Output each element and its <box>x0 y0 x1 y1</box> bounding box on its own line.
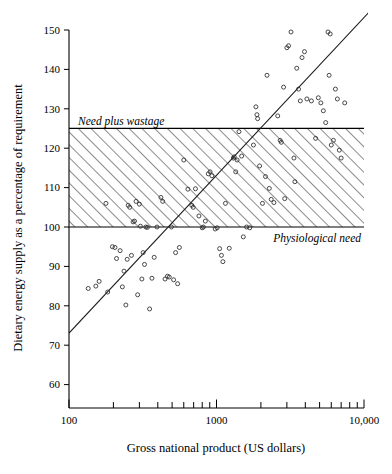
y-tick-label: 70 <box>49 339 61 351</box>
x-tick-label: 1000 <box>206 414 229 426</box>
x-tick-label: 100 <box>61 414 78 426</box>
y-tick-label: 130 <box>44 103 61 115</box>
y-tick-label: 90 <box>49 260 61 272</box>
scatter-plot: 60708090100110120130140150 100100010,000… <box>0 0 392 474</box>
x-tick-label: 10,000 <box>349 414 380 426</box>
y-tick-label: 100 <box>44 221 61 233</box>
y-tick-label: 60 <box>49 378 61 390</box>
annotation-physiological-need: Physiological need <box>272 232 361 245</box>
y-tick-label: 80 <box>49 300 61 312</box>
shaded-band-need-plus-wastage <box>69 128 364 227</box>
y-tick-label: 150 <box>44 24 61 36</box>
y-tick-label: 140 <box>44 63 61 75</box>
y-tick-label: 110 <box>44 181 61 193</box>
y-axis-title: Dietary energy supply as a percentage of… <box>11 84 25 352</box>
x-axis-title: Gross national product (US dollars) <box>127 441 305 455</box>
annotation-need-plus-wastage: Need plus wastage <box>77 115 164 128</box>
chart-figure: 60708090100110120130140150 100100010,000… <box>0 0 392 474</box>
y-tick-label: 120 <box>44 142 61 154</box>
